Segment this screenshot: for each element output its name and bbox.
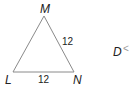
side-label-mn: 12 — [62, 36, 74, 47]
vertex-label-d: D — [113, 45, 122, 59]
vertex-label-n: N — [73, 73, 82, 87]
triangle-diagram: M L N 12 12 D < — [0, 0, 134, 100]
vertex-label-m: M — [40, 2, 50, 16]
angle-glyph: < — [123, 43, 129, 54]
side-label-ln: 12 — [38, 74, 50, 85]
vertex-label-l: L — [5, 73, 12, 87]
